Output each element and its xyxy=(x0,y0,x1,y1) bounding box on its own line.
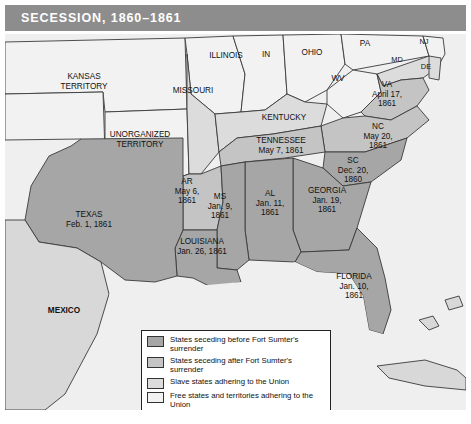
secession-map-figure: SECESSION, 1860–1861 xyxy=(0,0,471,424)
region-delaware xyxy=(429,56,441,80)
map-legend: States seceding before Fort Sumter's sur… xyxy=(141,330,331,410)
legend-label: Free states and territories adhering to … xyxy=(170,391,325,410)
map-title-bar: SECESSION, 1860–1861 xyxy=(5,5,466,31)
map-canvas: KANSAS TERRITORY UNORGANIZED TERRITORY M… xyxy=(5,34,466,410)
region-arkansas xyxy=(183,166,223,230)
legend-swatch-icon xyxy=(147,336,164,347)
legend-item-slave-union: Slave states adhering to the Union xyxy=(147,377,325,389)
region-mississippi xyxy=(217,162,249,270)
legend-label: States seceding before Fort Sumter's sur… xyxy=(170,335,325,354)
legend-item-free-union: Free states and territories adhering to … xyxy=(147,391,325,410)
legend-item-seceded-after: States seceding after Fort Sumter's surr… xyxy=(147,356,325,375)
legend-item-seceded-before: States seceding before Fort Sumter's sur… xyxy=(147,335,325,354)
legend-swatch-icon xyxy=(147,378,164,389)
legend-swatch-icon xyxy=(147,357,164,368)
region-alabama xyxy=(245,158,301,262)
legend-swatch-icon xyxy=(147,392,164,403)
map-title: SECESSION, 1860–1861 xyxy=(21,11,181,25)
legend-label: States seceding after Fort Sumter's surr… xyxy=(170,356,325,375)
legend-label: Slave states adhering to the Union xyxy=(170,377,289,386)
